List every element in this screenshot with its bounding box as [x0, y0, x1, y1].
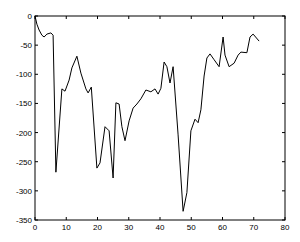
x-tick-label: 70 — [249, 223, 258, 232]
y-tick-label: 0 — [28, 12, 33, 21]
x-tick-label: 20 — [93, 223, 102, 232]
y-tick-label: -150 — [16, 99, 33, 108]
x-tick-label: 30 — [124, 223, 133, 232]
y-tick-label: -250 — [16, 158, 33, 167]
y-tick-label: -50 — [20, 41, 32, 50]
x-tick-label: 60 — [218, 223, 227, 232]
y-tick-label: -350 — [16, 216, 33, 225]
y-tick-label: -300 — [16, 187, 33, 196]
x-tick-label: 0 — [33, 223, 38, 232]
x-tick-label: 10 — [62, 223, 71, 232]
line-chart: 01020304050607080 0-50-100-150-200-250-3… — [0, 0, 300, 242]
y-tick-label: -100 — [16, 70, 33, 79]
y-tick-label: -200 — [16, 129, 33, 138]
x-tick-label: 40 — [156, 223, 165, 232]
plot-area — [35, 16, 285, 220]
x-tick-label: 80 — [281, 223, 290, 232]
x-tick-label: 50 — [187, 223, 196, 232]
